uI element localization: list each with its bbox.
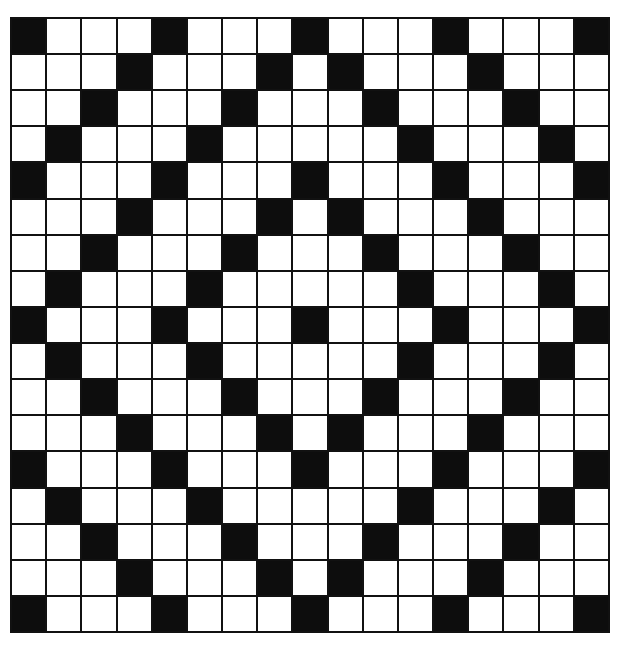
white-square[interactable]	[434, 344, 467, 378]
white-square[interactable]	[469, 344, 502, 378]
white-square[interactable]	[399, 380, 432, 414]
white-square[interactable]	[188, 416, 221, 450]
white-square[interactable]	[575, 489, 608, 523]
white-square[interactable]	[364, 308, 397, 342]
white-square[interactable]	[364, 561, 397, 595]
white-square[interactable]	[434, 416, 467, 450]
white-square[interactable]	[153, 489, 186, 523]
white-square[interactable]	[469, 308, 502, 342]
white-square[interactable]	[223, 272, 256, 306]
white-square[interactable]	[329, 163, 362, 197]
white-square[interactable]	[82, 55, 115, 89]
white-square[interactable]	[434, 272, 467, 306]
white-square[interactable]	[504, 416, 537, 450]
white-square[interactable]	[364, 163, 397, 197]
white-square[interactable]	[540, 55, 573, 89]
white-square[interactable]	[540, 525, 573, 559]
white-square[interactable]	[504, 55, 537, 89]
white-square[interactable]	[12, 272, 45, 306]
white-square[interactable]	[575, 416, 608, 450]
white-square[interactable]	[82, 272, 115, 306]
white-square[interactable]	[329, 19, 362, 53]
white-square[interactable]	[364, 272, 397, 306]
white-square[interactable]	[258, 308, 291, 342]
white-square[interactable]	[364, 452, 397, 486]
white-square[interactable]	[258, 163, 291, 197]
white-square[interactable]	[329, 272, 362, 306]
white-square[interactable]	[575, 272, 608, 306]
white-square[interactable]	[118, 525, 151, 559]
white-square[interactable]	[575, 200, 608, 234]
white-square[interactable]	[47, 55, 80, 89]
white-square[interactable]	[540, 452, 573, 486]
white-square[interactable]	[12, 344, 45, 378]
white-square[interactable]	[153, 200, 186, 234]
white-square[interactable]	[399, 19, 432, 53]
white-square[interactable]	[153, 344, 186, 378]
white-square[interactable]	[434, 91, 467, 125]
white-square[interactable]	[504, 19, 537, 53]
white-square[interactable]	[47, 525, 80, 559]
white-square[interactable]	[47, 380, 80, 414]
white-square[interactable]	[12, 380, 45, 414]
white-square[interactable]	[118, 127, 151, 161]
white-square[interactable]	[293, 561, 326, 595]
white-square[interactable]	[258, 19, 291, 53]
white-square[interactable]	[223, 597, 256, 631]
white-square[interactable]	[469, 127, 502, 161]
white-square[interactable]	[258, 525, 291, 559]
white-square[interactable]	[47, 19, 80, 53]
white-square[interactable]	[258, 272, 291, 306]
white-square[interactable]	[469, 489, 502, 523]
white-square[interactable]	[223, 308, 256, 342]
white-square[interactable]	[47, 91, 80, 125]
white-square[interactable]	[293, 55, 326, 89]
white-square[interactable]	[118, 597, 151, 631]
white-square[interactable]	[364, 127, 397, 161]
white-square[interactable]	[223, 19, 256, 53]
white-square[interactable]	[258, 597, 291, 631]
white-square[interactable]	[399, 91, 432, 125]
white-square[interactable]	[188, 236, 221, 270]
white-square[interactable]	[329, 597, 362, 631]
white-square[interactable]	[399, 597, 432, 631]
white-square[interactable]	[223, 163, 256, 197]
white-square[interactable]	[223, 127, 256, 161]
white-square[interactable]	[12, 561, 45, 595]
white-square[interactable]	[188, 91, 221, 125]
white-square[interactable]	[575, 380, 608, 414]
white-square[interactable]	[47, 163, 80, 197]
white-square[interactable]	[540, 308, 573, 342]
white-square[interactable]	[188, 308, 221, 342]
white-square[interactable]	[118, 452, 151, 486]
white-square[interactable]	[153, 91, 186, 125]
white-square[interactable]	[153, 272, 186, 306]
white-square[interactable]	[434, 561, 467, 595]
white-square[interactable]	[575, 127, 608, 161]
white-square[interactable]	[118, 91, 151, 125]
white-square[interactable]	[223, 55, 256, 89]
white-square[interactable]	[293, 127, 326, 161]
white-square[interactable]	[364, 416, 397, 450]
white-square[interactable]	[153, 127, 186, 161]
white-square[interactable]	[118, 489, 151, 523]
white-square[interactable]	[364, 489, 397, 523]
white-square[interactable]	[82, 163, 115, 197]
white-square[interactable]	[293, 525, 326, 559]
white-square[interactable]	[540, 416, 573, 450]
white-square[interactable]	[293, 91, 326, 125]
white-square[interactable]	[540, 163, 573, 197]
white-square[interactable]	[575, 525, 608, 559]
white-square[interactable]	[153, 55, 186, 89]
white-square[interactable]	[293, 380, 326, 414]
white-square[interactable]	[504, 597, 537, 631]
white-square[interactable]	[12, 236, 45, 270]
white-square[interactable]	[329, 452, 362, 486]
white-square[interactable]	[364, 55, 397, 89]
white-square[interactable]	[434, 127, 467, 161]
white-square[interactable]	[329, 91, 362, 125]
white-square[interactable]	[504, 200, 537, 234]
white-square[interactable]	[293, 416, 326, 450]
white-square[interactable]	[223, 561, 256, 595]
white-square[interactable]	[399, 561, 432, 595]
